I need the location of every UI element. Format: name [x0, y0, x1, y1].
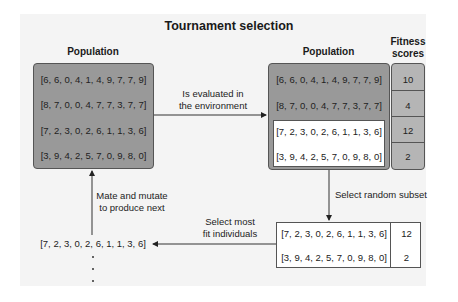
connector-arrows — [0, 0, 458, 302]
